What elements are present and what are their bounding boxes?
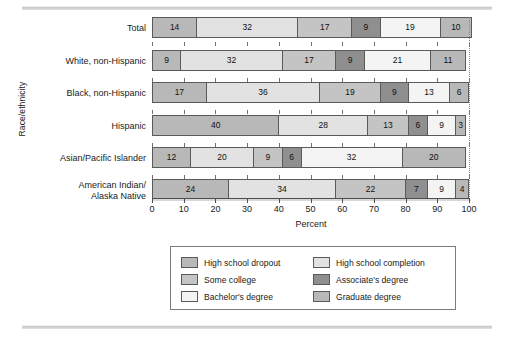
bar-segment-value: 22 bbox=[366, 185, 375, 194]
bar-row: 402813693 bbox=[152, 115, 469, 136]
bar-segment: 9 bbox=[351, 17, 380, 38]
chart-legend: High school dropoutHigh school completio… bbox=[170, 246, 456, 310]
legend-item: High school completion bbox=[313, 257, 451, 268]
x-axis-tick-label: 90 bbox=[432, 204, 442, 214]
bar-segment-value: 12 bbox=[167, 153, 176, 162]
bar-segment: 17 bbox=[152, 82, 207, 103]
bar-segment: 9 bbox=[427, 115, 456, 136]
legend-label: High school dropout bbox=[204, 258, 280, 268]
bar-segment-value: 24 bbox=[186, 185, 195, 194]
bar-segment: 12 bbox=[152, 147, 191, 168]
bar-segment-value: 13 bbox=[383, 121, 392, 130]
plot-area: 1432179191093217921111736199136402813693… bbox=[152, 17, 469, 199]
legend-swatch bbox=[181, 291, 198, 302]
inter-row-tick-strip bbox=[152, 42, 469, 49]
legend-item: Bachelor's degree bbox=[181, 291, 313, 302]
y-axis-category-label: Hispanic bbox=[24, 121, 146, 132]
bar-row: 1220963220 bbox=[152, 147, 469, 168]
bar-segment: 9 bbox=[427, 179, 456, 200]
bar-segment-value: 32 bbox=[227, 56, 236, 65]
bar-segment-value: 9 bbox=[392, 88, 397, 97]
bar-segment-value: 21 bbox=[393, 56, 402, 65]
stacked-bar: 243422794 bbox=[152, 179, 469, 200]
bar-segment: 6 bbox=[282, 147, 302, 168]
bar-segment-value: 17 bbox=[304, 56, 313, 65]
bar-segment-value: 6 bbox=[289, 153, 294, 162]
x-axis-tick-label: 10 bbox=[179, 204, 189, 214]
bar-segment-value: 7 bbox=[414, 185, 419, 194]
bar-segment: 6 bbox=[449, 82, 469, 103]
y-axis-category-label: Black, non-Hispanic bbox=[24, 88, 146, 99]
legend-label: Associate's degree bbox=[336, 275, 408, 285]
bar-segment-value: 14 bbox=[170, 23, 179, 32]
stacked-bar: 402813693 bbox=[152, 115, 466, 136]
bar-segment: 28 bbox=[278, 115, 367, 136]
legend-label: Bachelor's degree bbox=[204, 292, 273, 302]
bar-segment: 9 bbox=[253, 147, 282, 168]
bar-segment: 11 bbox=[430, 50, 466, 71]
bar-segment: 32 bbox=[196, 17, 298, 38]
legend-swatch bbox=[313, 257, 330, 268]
legend-label: Graduate degree bbox=[336, 292, 401, 302]
bar-segment: 24 bbox=[152, 179, 229, 200]
bar-segment-value: 9 bbox=[439, 121, 444, 130]
bar-segment: 21 bbox=[364, 50, 431, 71]
bar-segment-value: 9 bbox=[439, 185, 444, 194]
bar-segment-value: 20 bbox=[429, 153, 438, 162]
bar-segment: 13 bbox=[367, 115, 409, 136]
x-axis-tick-label: 80 bbox=[401, 204, 411, 214]
y-axis-category-label: American Indian/ Alaska Native bbox=[24, 180, 146, 201]
bar-segment-value: 17 bbox=[320, 23, 329, 32]
bar-segment: 40 bbox=[152, 115, 279, 136]
bar-segment-value: 19 bbox=[345, 88, 354, 97]
inter-row-tick-strip bbox=[152, 140, 469, 147]
bar-segment: 3 bbox=[455, 115, 465, 136]
x-axis-tick-label: 50 bbox=[305, 204, 315, 214]
bar-segment: 13 bbox=[408, 82, 450, 103]
bar-segment: 19 bbox=[380, 17, 441, 38]
bar-segment-value: 9 bbox=[363, 23, 368, 32]
bar-segment: 34 bbox=[228, 179, 336, 200]
x-axis-tick-label: 70 bbox=[369, 204, 379, 214]
stacked-bar: 9321792111 bbox=[152, 50, 466, 71]
x-axis-tick-label: 40 bbox=[274, 204, 284, 214]
legend-swatch bbox=[313, 274, 330, 285]
bar-segment: 14 bbox=[152, 17, 197, 38]
stacked-bar: 1220963220 bbox=[152, 147, 466, 168]
legend-label: Some college bbox=[204, 275, 256, 285]
legend-swatch bbox=[181, 274, 198, 285]
bar-segment-value: 6 bbox=[457, 88, 462, 97]
bar-segment: 17 bbox=[297, 17, 352, 38]
legend-swatch bbox=[181, 257, 198, 268]
bar-segment-value: 4 bbox=[460, 185, 465, 194]
bar-segment: 9 bbox=[335, 50, 364, 71]
x-axis-tick-labels: 0102030405060708090100 bbox=[152, 204, 470, 218]
x-axis-tick-label: 100 bbox=[461, 204, 476, 214]
x-axis-tick-label: 0 bbox=[149, 204, 154, 214]
bar-row: 1736199136 bbox=[152, 82, 469, 103]
bar-segment-value: 19 bbox=[405, 23, 414, 32]
x-axis-title: Percent bbox=[152, 219, 470, 229]
bar-segment: 20 bbox=[402, 147, 466, 168]
bar-segment-value: 9 bbox=[265, 153, 270, 162]
bar-segment-value: 9 bbox=[164, 56, 169, 65]
bar-segment-value: 3 bbox=[458, 121, 463, 130]
stacked-bar: 1736199136 bbox=[152, 82, 469, 103]
bar-segment: 20 bbox=[190, 147, 254, 168]
bar-segment: 17 bbox=[282, 50, 337, 71]
bar-segment-value: 32 bbox=[243, 23, 252, 32]
y-axis-category-label: Total bbox=[24, 23, 146, 34]
bar-segment-value: 20 bbox=[217, 153, 226, 162]
bar-segment-value: 9 bbox=[348, 56, 353, 65]
bar-segment: 9 bbox=[380, 82, 409, 103]
bar-segment-value: 40 bbox=[211, 121, 220, 130]
y-axis-category-labels: TotalWhite, non-HispanicBlack, non-Hispa… bbox=[24, 18, 146, 198]
bar-segment: 7 bbox=[405, 179, 428, 200]
legend-swatch bbox=[313, 291, 330, 302]
legend-item: Some college bbox=[181, 274, 313, 285]
legend-grid: High school dropoutHigh school completio… bbox=[181, 254, 451, 305]
bar-segment-value: 32 bbox=[347, 153, 356, 162]
bar-segment: 10 bbox=[440, 17, 473, 38]
y-axis-category-label: Asian/Pacific Islander bbox=[24, 153, 146, 164]
bar-segment-value: 28 bbox=[318, 121, 327, 130]
